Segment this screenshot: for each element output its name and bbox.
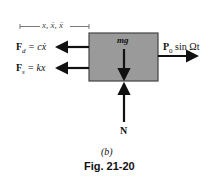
applied-force-label: P0 sin Ωt <box>163 41 200 55</box>
normal-force-label: N <box>120 125 127 136</box>
figure-caption: Fig. 21-20 <box>84 160 135 172</box>
damping-force-label: Fd = cẋ <box>16 41 46 55</box>
part-label: (b) <box>101 146 113 157</box>
weight-label: mg <box>117 35 129 45</box>
spring-force-label: Fs = kx <box>16 62 45 76</box>
displacement-label: x, ẋ, ẍ <box>42 20 63 30</box>
